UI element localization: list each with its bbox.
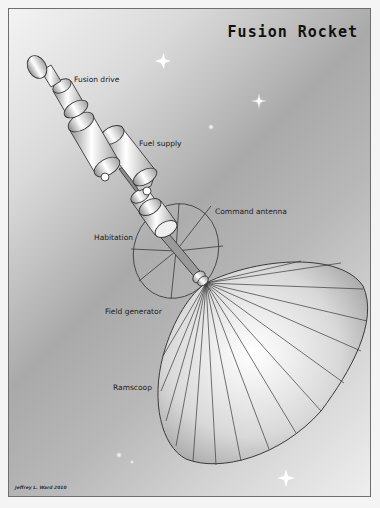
label-habitation: Habitation: [94, 233, 133, 242]
illustration-frame: Fusion Rocket Fusion drive Fuel supply C…: [8, 8, 371, 497]
fusion-rocket-illustration: [9, 9, 371, 497]
label-ramscoop: Ramscoop: [113, 383, 152, 392]
artist-credit: Jeffrey L. Ward 2010: [15, 485, 67, 490]
label-command-antenna: Command antenna: [215, 207, 287, 216]
fusion-drive-shape: [23, 52, 123, 181]
label-fusion-drive: Fusion drive: [74, 75, 119, 84]
label-fuel-supply: Fuel supply: [139, 139, 181, 148]
label-field-generator: Field generator: [105, 307, 162, 316]
diagram-title: Fusion Rocket: [228, 23, 358, 41]
